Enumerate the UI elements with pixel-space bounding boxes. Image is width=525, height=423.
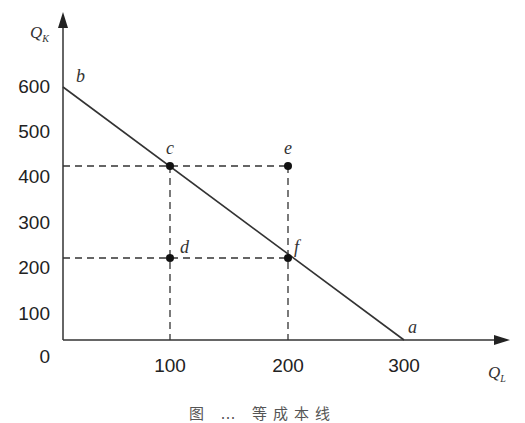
point-d bbox=[166, 254, 174, 262]
label-b: b bbox=[76, 66, 85, 86]
x-axis-arrow-icon bbox=[494, 335, 510, 345]
figure-caption: 图 … 等成本线 bbox=[0, 402, 525, 423]
point-f bbox=[284, 254, 292, 262]
svg-text:100: 100 bbox=[154, 355, 186, 376]
svg-text:100: 100 bbox=[18, 303, 50, 324]
svg-text:500: 500 bbox=[18, 121, 50, 142]
label-f: f bbox=[294, 237, 302, 257]
svg-text:600: 600 bbox=[18, 76, 50, 97]
point-e bbox=[284, 162, 292, 170]
point-c bbox=[166, 162, 174, 170]
y-axis-arrow-icon bbox=[58, 12, 68, 28]
svg-text:300: 300 bbox=[388, 355, 420, 376]
origin-label: 0 bbox=[39, 346, 50, 367]
svg-text:300: 300 bbox=[18, 212, 50, 233]
x-tick-labels: 100 200 300 bbox=[154, 355, 420, 376]
label-c: c bbox=[166, 138, 174, 158]
label-a: a bbox=[408, 317, 417, 337]
y-tick-labels: 600 500 400 300 200 100 0 bbox=[18, 76, 50, 367]
svg-text:400: 400 bbox=[18, 166, 50, 187]
y-axis-title: QK bbox=[30, 23, 50, 44]
label-e: e bbox=[284, 138, 292, 158]
x-axis-title: QL bbox=[488, 363, 506, 384]
svg-text:200: 200 bbox=[18, 257, 50, 278]
svg-text:200: 200 bbox=[272, 355, 304, 376]
label-d: d bbox=[180, 237, 190, 257]
isocost-line bbox=[63, 87, 404, 340]
guide-lines bbox=[63, 166, 288, 340]
